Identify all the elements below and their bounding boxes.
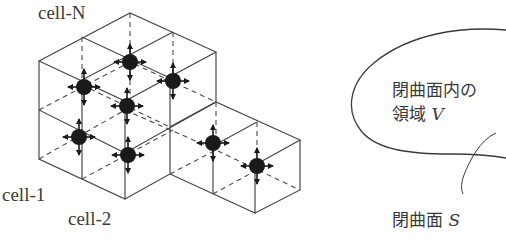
cell-1-label: cell-1 [2,184,45,205]
region-label-line2: 領域 V [392,104,445,124]
particle-5 [157,63,189,99]
lower-right-top-connector [170,102,216,127]
particle-dot-icon [76,79,92,95]
cell-2-label: cell-2 [68,208,111,229]
surface-label-prefix: 閉曲面 [392,210,448,230]
particle-dot-icon [122,54,138,70]
particle-2 [68,69,100,105]
hidden-edge-11 [213,170,257,194]
closed-surface-cell-diagram: cell-N cell-1 cell-2 閉曲面内の 領域 V 閉曲面 S [0,0,506,241]
surface-label: 閉曲面 S [392,210,460,230]
lower-right-end [255,140,300,213]
particle-dot-icon [249,158,265,174]
surface-leader-line [462,133,496,194]
particle-6 [112,137,144,173]
particle-dot-icon [71,129,87,145]
region-label-line1: 閉曲面内の [392,80,477,100]
particle-7 [197,125,229,161]
cube-stack [39,13,300,213]
particle-dot-icon [205,135,221,151]
hidden-edge-10 [170,150,300,190]
particle-8 [241,148,273,184]
lower-left-right-edge [125,127,170,199]
region-label-prefix: 領域 [392,104,431,124]
surface-variable-s: S [448,210,460,230]
region-variable-v: V [431,104,445,124]
particle-dot-icon [120,147,136,163]
particle-dot-icon [119,98,135,114]
particle-dot-icon [165,73,181,89]
cell-n-label: cell-N [38,2,86,23]
